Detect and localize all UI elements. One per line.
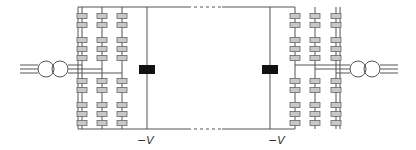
left-submodule xyxy=(117,56,127,61)
left-submodule xyxy=(77,79,87,84)
right-submodule xyxy=(310,47,320,52)
right-submodule xyxy=(290,56,300,61)
left-submodule xyxy=(117,103,127,108)
right-submodule xyxy=(290,88,300,93)
left-submodule xyxy=(97,56,107,61)
left-submodule xyxy=(77,103,87,108)
left-submodule xyxy=(97,121,107,126)
right-submodule xyxy=(331,14,341,19)
left-submodule xyxy=(97,38,107,43)
right-submodule xyxy=(331,79,341,84)
left-submodule xyxy=(77,23,87,28)
left-submodule xyxy=(117,14,127,19)
left-submodule xyxy=(117,112,127,117)
right-submodule xyxy=(290,103,300,108)
left-submodule xyxy=(97,112,107,117)
right-submodule xyxy=(310,103,320,108)
left-submodule xyxy=(97,23,107,28)
right-submodule xyxy=(331,103,341,108)
left-submodule xyxy=(77,14,87,19)
left-submodule xyxy=(77,88,87,93)
left-submodule xyxy=(97,14,107,19)
right-submodule xyxy=(331,47,341,52)
left-dc-reactor xyxy=(139,65,155,74)
right-submodule xyxy=(310,38,320,43)
right-submodule xyxy=(331,88,341,93)
left-submodule xyxy=(117,121,127,126)
right-submodule xyxy=(290,79,300,84)
left-submodule xyxy=(97,79,107,84)
right-submodule xyxy=(310,56,320,61)
right-submodule xyxy=(290,121,300,126)
left-submodule xyxy=(97,88,107,93)
left-submodule xyxy=(117,79,127,84)
right-dc-reactor xyxy=(262,65,278,74)
right-submodule xyxy=(310,112,320,117)
left-submodule xyxy=(117,88,127,93)
right-submodule xyxy=(310,88,320,93)
left-submodule xyxy=(77,121,87,126)
left-submodule xyxy=(117,23,127,28)
right-submodule xyxy=(331,23,341,28)
right-submodule xyxy=(290,23,300,28)
right-submodule xyxy=(310,14,320,19)
right-submodule xyxy=(310,79,320,84)
left-submodule xyxy=(77,47,87,52)
right-submodule xyxy=(331,112,341,117)
right-submodule xyxy=(290,38,300,43)
left-submodule xyxy=(117,47,127,52)
right-submodule xyxy=(331,38,341,43)
right-dc-voltage-label: −V xyxy=(268,134,286,147)
left-submodule xyxy=(97,47,107,52)
left-submodule xyxy=(77,112,87,117)
left-submodule xyxy=(117,38,127,43)
right-submodule xyxy=(331,56,341,61)
left-submodule xyxy=(77,38,87,43)
right-submodule xyxy=(310,121,320,126)
right-submodule xyxy=(290,47,300,52)
left-dc-voltage-label: −V xyxy=(137,134,155,147)
right-submodule xyxy=(290,14,300,19)
right-submodule xyxy=(331,121,341,126)
left-submodule xyxy=(77,56,87,61)
right-submodule xyxy=(310,23,320,28)
right-submodule xyxy=(290,112,300,117)
left-submodule xyxy=(97,103,107,108)
hvdc-mmc-diagram: −V −V xyxy=(0,0,416,150)
